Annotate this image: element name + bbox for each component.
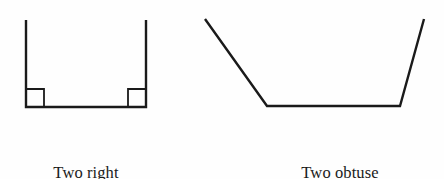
caption-obtuse-angles: Two obtuse angles	[258, 120, 422, 179]
right-angle-marker-right	[128, 89, 146, 107]
figure-obtuse-angle-trapezoid	[205, 19, 424, 106]
caption-obtuse-angles-line1: Two obtuse	[258, 162, 422, 179]
trapezoid-outline	[205, 19, 424, 106]
caption-right-angles-line1: Two right	[6, 162, 166, 179]
caption-right-angles: Two right angles	[6, 120, 166, 179]
figure-right-angle-bracket	[26, 20, 146, 107]
right-angle-marker-left	[26, 89, 44, 107]
